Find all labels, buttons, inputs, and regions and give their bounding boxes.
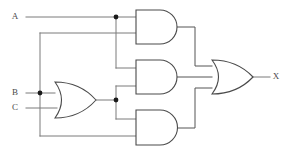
and-gate-top[interactable]: [136, 10, 177, 44]
circuit-canvas: A B C X: [0, 0, 291, 157]
input-label-a: A: [12, 11, 19, 21]
junction-or1-output: [114, 98, 119, 103]
junction-b-branch: [38, 91, 43, 96]
gate-layer: [55, 10, 253, 145]
and-gate-middle[interactable]: [136, 60, 177, 94]
input-label-b: B: [12, 87, 18, 97]
wire-and3-to-or2: [177, 88, 212, 128]
and-gate-bottom[interactable]: [136, 110, 178, 145]
wire-and1-to-or2: [177, 27, 212, 66]
output-label-x: X: [273, 71, 280, 81]
junction-a-branch: [114, 15, 119, 20]
logic-circuit-diagram: A B C X: [0, 0, 291, 157]
or-gate-output[interactable]: [212, 60, 253, 94]
input-label-c: C: [12, 102, 18, 112]
or-gate-bc[interactable]: [55, 82, 96, 118]
